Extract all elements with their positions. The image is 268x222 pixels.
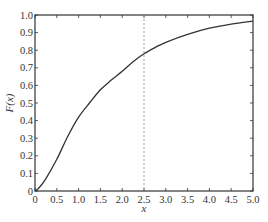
x-axis-label: x	[141, 202, 147, 214]
y-tick-label: 0.5	[20, 98, 33, 109]
x-tick-label: 1.5	[94, 194, 107, 205]
y-tick-label: 0.8	[20, 45, 33, 56]
x-tick-label: 5.0	[246, 194, 259, 205]
cdf-curve	[35, 21, 253, 191]
x-tick-label: 2.0	[116, 194, 129, 205]
y-tick-label: 0.3	[20, 133, 33, 144]
x-tick-label: 0	[32, 194, 37, 205]
x-tick-label: 4.0	[203, 194, 216, 205]
x-tick-label: 4.5	[225, 194, 238, 205]
y-tick-labels: 00.10.20.30.40.50.60.70.80.91.0	[20, 10, 34, 197]
x-tick-label: 1.0	[72, 194, 85, 205]
y-tick-label: 0.7	[20, 62, 33, 73]
y-tick-label: 1.0	[20, 10, 33, 21]
y-tick-label: 0	[28, 186, 33, 197]
y-tick-label: 0.1	[20, 168, 33, 179]
x-tick-label: 0.5	[50, 194, 63, 205]
x-tick-label: 3.0	[159, 194, 172, 205]
y-tick-label: 0.4	[20, 115, 34, 126]
cdf-chart: 00.51.01.52.02.53.03.54.04.55.0 00.10.20…	[0, 0, 268, 222]
data-series	[35, 21, 253, 191]
y-tick-label: 0.2	[20, 150, 33, 161]
y-axis-label: F(x)	[3, 93, 16, 113]
y-tick-label: 0.6	[20, 80, 33, 91]
x-tick-label: 3.5	[181, 194, 194, 205]
y-tick-label: 0.9	[20, 27, 33, 38]
